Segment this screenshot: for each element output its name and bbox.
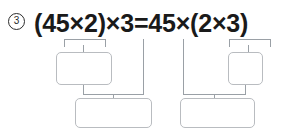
equation: (45×2)×3 = 45×(2×3) [34, 8, 248, 38]
answer-box-right-upper[interactable] [228, 52, 263, 85]
equation-left-side: (45×2)×3 [34, 9, 134, 38]
connector-right-upper-box-down [245, 85, 246, 94]
connector-left-upper-box-down [83, 85, 84, 94]
answer-box-left-upper[interactable] [56, 52, 112, 85]
bracket-right-inner-product [229, 39, 271, 47]
answer-box-left-lower[interactable] [75, 98, 152, 128]
connector-drop-from-three [143, 39, 144, 94]
worksheet-problem: 3 (45×2)×3 = 45×(2×3) [0, 0, 287, 134]
bracket-left-inner-product [64, 39, 106, 47]
equals-sign: = [134, 9, 148, 38]
connector-drop-from-fortyfive [183, 39, 184, 94]
problem-number-marker: 3 [8, 13, 25, 30]
answer-box-right-lower[interactable] [180, 98, 255, 128]
equation-right-side: 45×(2×3) [148, 9, 248, 38]
